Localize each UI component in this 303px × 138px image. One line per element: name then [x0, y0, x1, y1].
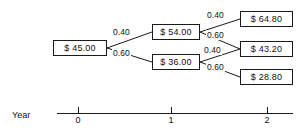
probability-down-down: 0.60 — [206, 62, 225, 72]
node-year1-up-54: $ 54.00 — [152, 24, 200, 40]
axis-title-year: Year — [12, 110, 30, 120]
probability-down-up: 0.40 — [203, 45, 222, 55]
axis-tick-label-2: 2 — [259, 115, 275, 125]
node-year2-upup-64: $ 64.80 — [240, 11, 293, 27]
probability-root-up: 0.40 — [112, 27, 131, 37]
node-value-label: $ 36.00 — [160, 57, 191, 67]
decision-tree-figure: $ 45.00 $ 54.00 $ 36.00 $ 64.80 $ 43.20 … — [0, 0, 303, 138]
probability-up-down: 0.60 — [206, 30, 225, 40]
probability-root-down: 0.60 — [112, 48, 131, 58]
node-year0-45: $ 45.00 — [53, 40, 107, 56]
node-value-label: $ 45.00 — [64, 43, 95, 53]
node-value-label: $ 28.80 — [251, 72, 282, 82]
axis-tick-label-0: 0 — [70, 115, 86, 125]
node-year1-down-36: $ 36.00 — [152, 54, 200, 70]
node-value-label: $ 64.80 — [251, 14, 282, 24]
node-year2-downdown-28: $ 28.80 — [240, 69, 293, 85]
node-value-label: $ 54.00 — [160, 27, 191, 37]
probability-up-up: 0.40 — [206, 10, 225, 20]
node-year2-updown-43: $ 43.20 — [240, 41, 293, 57]
axis-tick-label-1: 1 — [163, 115, 179, 125]
node-value-label: $ 43.20 — [251, 44, 282, 54]
